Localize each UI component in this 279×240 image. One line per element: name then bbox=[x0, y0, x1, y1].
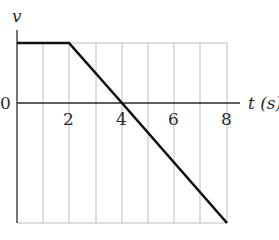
x-tick-6: 6 bbox=[168, 109, 179, 129]
x-tick-8: 8 bbox=[221, 109, 232, 129]
x-tick-2: 2 bbox=[63, 109, 74, 129]
velocity-time-chart: v 0 2 4 6 8 t (s) bbox=[0, 0, 279, 240]
x-tick-4: 4 bbox=[116, 109, 127, 129]
grid-lines bbox=[17, 43, 227, 223]
x-axis-label: t (s) bbox=[248, 93, 279, 113]
zero-label: 0 bbox=[0, 93, 11, 113]
y-axis-label: v bbox=[12, 6, 22, 26]
